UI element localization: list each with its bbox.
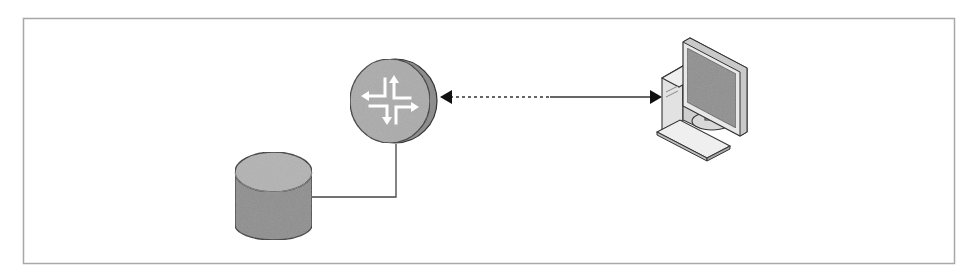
arrowhead-left-icon [440, 90, 452, 104]
diagram-frame [24, 19, 955, 264]
arrowhead-right-icon [650, 90, 662, 104]
edge-router-storage [312, 144, 396, 197]
database-cylinder-icon [235, 152, 312, 240]
desktop-computer-icon [657, 38, 747, 161]
diagram-svg [0, 0, 975, 274]
router-icon [350, 59, 437, 143]
edge-router-workstation [440, 90, 662, 104]
network-diagram [0, 0, 975, 274]
